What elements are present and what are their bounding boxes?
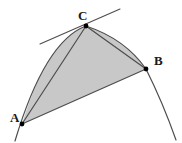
point-c-marker	[84, 24, 89, 29]
parabola-figure: A B C	[0, 0, 182, 143]
point-c-label: C	[78, 8, 87, 23]
point-a-label: A	[10, 110, 20, 125]
point-b-marker	[144, 67, 149, 72]
point-a-marker	[20, 122, 25, 127]
point-b-label: B	[154, 53, 163, 68]
figure-canvas: A B C	[0, 0, 182, 143]
